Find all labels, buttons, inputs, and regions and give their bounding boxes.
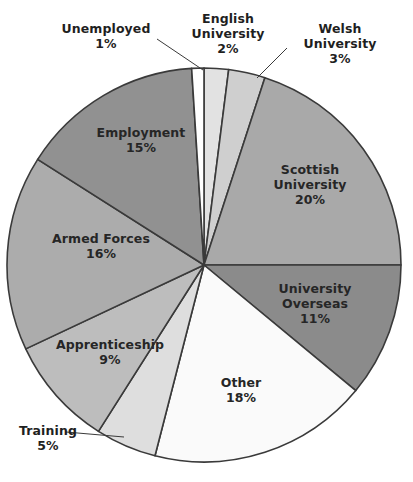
slice-label-training-pct: 5% xyxy=(2,439,94,454)
slice-label-employment: Employment 15% xyxy=(80,126,202,156)
slice-label-university-overseas: University Overseas 11% xyxy=(262,282,368,326)
slice-label-english-university-pct: 2% xyxy=(180,42,276,57)
slice-label-unemployed: Unemployed 1% xyxy=(48,22,164,52)
slice-label-armed-forces-name: Armed Forces xyxy=(52,231,150,246)
slice-label-welsh-university-line1: Welsh xyxy=(319,21,362,36)
slice-label-university-overseas-line2: Overseas xyxy=(282,296,348,311)
slice-label-armed-forces-pct: 16% xyxy=(38,247,164,262)
slice-label-english-university-line1: English xyxy=(202,11,254,26)
slice-label-training: Training 5% xyxy=(2,424,94,454)
slice-label-welsh-university-pct: 3% xyxy=(285,52,395,67)
slice-label-welsh-university-line2: University xyxy=(304,36,377,51)
slice-label-other-pct: 18% xyxy=(200,391,282,406)
slice-label-scottish-university-line2: University xyxy=(274,177,347,192)
slice-label-apprenticeship-name: Apprenticeship xyxy=(56,337,164,352)
slice-label-scottish-university-pct: 20% xyxy=(258,193,362,208)
slice-label-scottish-university-line1: Scottish xyxy=(281,162,339,177)
chart-canvas: Unemployed 1% English University 2% Wels… xyxy=(0,0,413,482)
slice-label-university-overseas-pct: 11% xyxy=(262,312,368,327)
slice-label-employment-pct: 15% xyxy=(80,141,202,156)
slice-label-welsh-university: Welsh University 3% xyxy=(285,22,395,66)
slice-label-training-name: Training xyxy=(19,423,77,438)
slice-label-unemployed-name: Unemployed xyxy=(62,21,151,36)
slice-label-employment-name: Employment xyxy=(97,125,186,140)
slice-label-unemployed-pct: 1% xyxy=(48,37,164,52)
slice-label-english-university: English University 2% xyxy=(180,12,276,56)
slice-label-english-university-line2: University xyxy=(192,26,265,41)
slice-label-other-name: Other xyxy=(221,375,262,390)
slice-label-scottish-university: Scottish University 20% xyxy=(258,163,362,207)
slice-label-other: Other 18% xyxy=(200,376,282,406)
slice-label-apprenticeship: Apprenticeship 9% xyxy=(42,338,178,368)
slice-label-apprenticeship-pct: 9% xyxy=(42,353,178,368)
slice-label-university-overseas-line1: University xyxy=(279,281,352,296)
slice-label-armed-forces: Armed Forces 16% xyxy=(38,232,164,262)
